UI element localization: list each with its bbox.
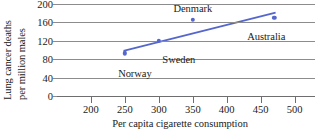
scatter-chart: Lung cancer deaths per million males Per… [0,0,322,137]
y-axis-title-line-2: per million males [16,0,27,100]
y-axis-tick-mark [53,96,57,97]
y-axis-tick-mark [53,4,57,5]
x-axis-tick-mark [227,96,228,103]
gridline [57,78,315,79]
y-axis-tick-label: 80 [27,54,53,65]
x-axis-tick-mark [91,96,92,103]
y-axis-tick-label: 160 [27,17,53,28]
data-point-label: Sweden [162,54,195,65]
y-axis-tick-label: 0 [27,91,53,102]
y-axis-tick-mark [53,59,57,60]
x-axis-tick-mark [125,96,126,103]
x-axis-tick-mark [193,96,194,103]
y-axis-tick-label: 120 [27,35,53,46]
y-axis-tick-mark [53,22,57,23]
x-axis-title: Per capita cigarette consumption [45,118,315,129]
y-axis-title-line-1: Lung cancer deaths [2,0,13,100]
y-axis-tick-mark [53,41,57,42]
y-axis-tick-label: 40 [27,72,53,83]
trendline [57,4,315,96]
plot-area: 04080120160200200250300350400450500Norwa… [57,4,315,96]
x-axis-tick-mark [261,96,262,103]
data-point-label: Denmark [173,3,212,14]
y-axis-tick-mark [53,78,57,79]
gridline [57,22,315,23]
x-axis-tick-label: 500 [275,104,315,115]
y-axis-tick-label: 200 [27,0,53,10]
data-point-label: Australia [247,31,285,42]
x-axis-line [57,96,315,97]
y-axis-title: Lung cancer deaths per million males [0,0,34,100]
x-axis-tick-mark [295,96,296,103]
x-axis-tick-mark [159,96,160,103]
data-point-label: Norway [118,68,152,79]
